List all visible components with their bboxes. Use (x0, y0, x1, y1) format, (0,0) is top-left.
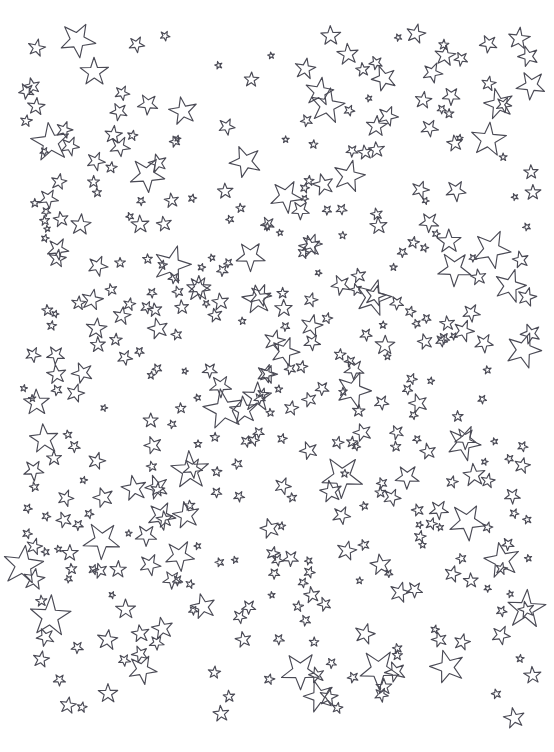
star-icon (215, 61, 222, 69)
star-icon (71, 642, 83, 653)
star-icon (265, 330, 285, 351)
star-icon (368, 142, 384, 158)
star-icon (105, 284, 116, 296)
star-icon (210, 377, 232, 398)
star-icon (30, 424, 58, 452)
star-icon (518, 46, 537, 66)
star-icon (390, 263, 397, 270)
star-icon (268, 592, 275, 599)
star-icon (509, 27, 531, 48)
star-icon (408, 237, 420, 249)
star-icon (202, 364, 217, 378)
star-icon (189, 606, 198, 615)
star-icon (230, 396, 257, 423)
star-icon (89, 256, 108, 276)
star-icon (482, 458, 489, 465)
star-icon (130, 159, 164, 192)
star-icon (463, 463, 485, 485)
star-icon (53, 212, 68, 227)
star-icon (175, 300, 189, 314)
star-icon (305, 557, 313, 565)
star-icon (510, 509, 519, 519)
star-icon (88, 175, 100, 187)
star-icon (57, 122, 73, 138)
star-icon (171, 451, 209, 487)
star-icon (171, 329, 182, 340)
star-icon (253, 428, 264, 438)
star-icon (208, 254, 215, 261)
star-icon (274, 635, 285, 645)
star-icon (275, 300, 292, 317)
star-icon (483, 522, 493, 533)
star-icon (333, 702, 343, 713)
star-icon (172, 502, 198, 528)
star-icon (244, 72, 259, 86)
star-icon (482, 76, 496, 90)
star-icon (268, 52, 275, 59)
star-icon (391, 441, 401, 451)
star-icon (384, 489, 401, 506)
star-icon (71, 214, 91, 234)
star-icon (213, 705, 229, 721)
star-icon (238, 317, 245, 324)
star-icon (416, 521, 423, 528)
star-icon (304, 335, 321, 350)
star-icon (44, 225, 51, 232)
star-icon (61, 137, 79, 156)
star-icon (375, 396, 389, 410)
star-icon (260, 519, 278, 539)
star-icon (478, 395, 487, 403)
star-icon (351, 268, 365, 282)
star-icon (126, 212, 134, 220)
star-icon (172, 286, 183, 297)
star-icon (156, 246, 191, 283)
star-icon (98, 630, 118, 650)
star-icon (507, 590, 514, 597)
star-icon (440, 316, 455, 330)
star-icon (85, 509, 94, 518)
star-icon (300, 615, 311, 626)
star-icon (322, 313, 332, 324)
star-icon (336, 204, 347, 214)
star-icon (147, 288, 157, 298)
star-icon (275, 385, 283, 393)
star-icon (421, 120, 438, 136)
star-icon (407, 583, 423, 598)
star-icon (47, 347, 65, 364)
star-icon (300, 115, 312, 127)
star-icon (317, 597, 330, 611)
star-icon (516, 73, 544, 100)
star-icon (23, 529, 33, 539)
star-icon (36, 595, 47, 606)
star-icon (210, 432, 219, 441)
star-icon (223, 690, 234, 702)
star-icon (429, 501, 448, 519)
star-icon (358, 145, 372, 159)
star-icon (511, 194, 518, 201)
star-icon (52, 310, 59, 317)
star-icon (379, 321, 387, 329)
star-icon (219, 119, 235, 135)
star-icon (151, 617, 172, 639)
star-icon (41, 548, 49, 556)
star-icon (475, 335, 493, 353)
star-icon (390, 426, 404, 440)
star-icon (77, 702, 87, 712)
star-icon (353, 424, 370, 441)
star-icon (446, 182, 466, 202)
star-icon (385, 570, 393, 578)
star-icon (408, 394, 426, 413)
star-icon (515, 458, 530, 474)
star-icon (484, 585, 491, 592)
star-icon (300, 183, 309, 193)
star-icon (337, 43, 358, 64)
star-icon (299, 442, 316, 460)
star-icon (516, 654, 524, 662)
star-icon (109, 592, 116, 599)
star-icon (86, 318, 107, 338)
star-icon (455, 634, 470, 650)
star-icon (169, 97, 197, 124)
star-icon (278, 434, 288, 444)
star-icon (266, 408, 274, 416)
star-icon (483, 366, 491, 374)
